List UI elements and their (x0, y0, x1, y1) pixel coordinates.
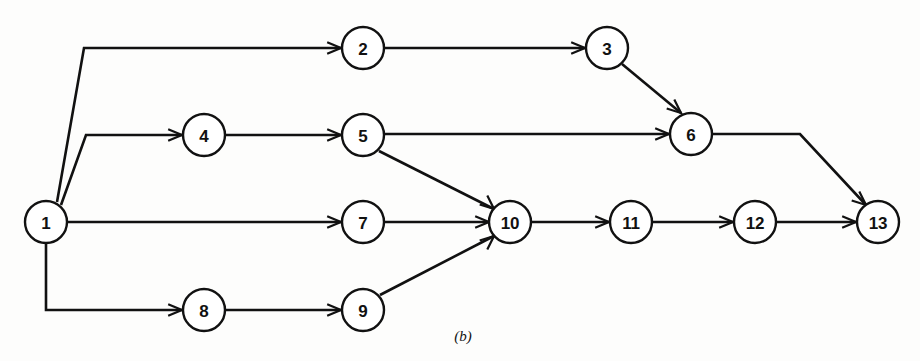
node-label-6: 6 (686, 126, 695, 145)
network-diagram-container: 12345678910111213 (b) (0, 0, 920, 361)
node-label-9: 9 (358, 302, 367, 321)
node-10[interactable]: 10 (489, 201, 531, 243)
node-11[interactable]: 11 (610, 201, 652, 243)
edges-layer (46, 48, 866, 310)
node-12[interactable]: 12 (734, 201, 776, 243)
node-label-4: 4 (199, 127, 209, 146)
edge-1-to-4 (61, 135, 182, 205)
node-3[interactable]: 3 (586, 27, 628, 69)
edge-9-to-10 (380, 236, 494, 295)
node-label-7: 7 (358, 214, 367, 233)
node-label-5: 5 (358, 127, 367, 146)
nodes-layer: 12345678910111213 (25, 27, 899, 331)
node-8[interactable]: 8 (183, 289, 225, 331)
node-label-3: 3 (602, 40, 611, 59)
node-1[interactable]: 1 (25, 201, 67, 243)
figure-caption: (b) (454, 328, 472, 345)
node-7[interactable]: 7 (342, 201, 384, 243)
edge-6-to-13 (713, 134, 866, 205)
node-label-2: 2 (358, 40, 367, 59)
network-diagram: 12345678910111213 (b) (0, 0, 920, 361)
node-label-8: 8 (199, 302, 208, 321)
edge-3-to-6 (622, 64, 681, 113)
arrowheads-layer (168, 42, 866, 316)
node-label-12: 12 (746, 214, 765, 233)
edge-5-to-10 (379, 151, 494, 209)
node-5[interactable]: 5 (342, 114, 384, 156)
node-label-11: 11 (622, 214, 640, 233)
node-13[interactable]: 13 (857, 201, 899, 243)
node-9[interactable]: 9 (342, 289, 384, 331)
node-2[interactable]: 2 (342, 27, 384, 69)
node-4[interactable]: 4 (183, 114, 225, 156)
node-label-13: 13 (869, 214, 888, 233)
edge-1-to-8 (46, 243, 182, 310)
node-6[interactable]: 6 (670, 113, 712, 155)
node-label-10: 10 (501, 214, 520, 233)
node-label-1: 1 (41, 214, 50, 233)
